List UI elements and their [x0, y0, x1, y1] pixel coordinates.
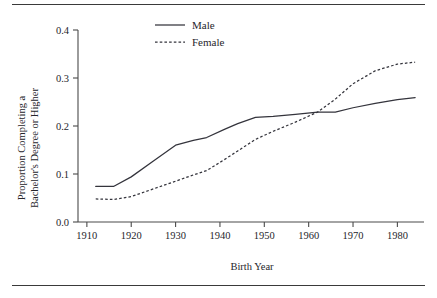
- series-line-male: [96, 98, 415, 187]
- legend-label-female: Female: [192, 36, 224, 48]
- y-axis-tick-labels: 0.00.10.20.30.4: [56, 25, 70, 228]
- x-axis-title: Birth Year: [230, 261, 274, 272]
- y-axis-title-line-1: Proportion Completing a: [16, 95, 27, 200]
- x-tick-label: 1950: [254, 230, 275, 241]
- y-tick-label: 0.0: [56, 217, 69, 228]
- y-tick-label: 0.1: [56, 169, 69, 180]
- data-series-group: [96, 62, 415, 199]
- legend-label-male: Male: [192, 19, 215, 31]
- x-tick-label: 1910: [76, 230, 97, 241]
- y-axis-title-line-2: Bachelor's Degree or Higher: [29, 88, 40, 208]
- x-axis-ticks: [87, 222, 398, 227]
- y-axis-ticks: [73, 30, 78, 222]
- y-tick-label: 0.3: [56, 73, 69, 84]
- y-tick-label: 0.4: [56, 25, 70, 36]
- line-chart: 0.00.10.20.30.4 191019201930194019501960…: [0, 0, 437, 298]
- y-axis-title: Proportion Completing a Bachelor's Degre…: [16, 88, 40, 208]
- x-tick-label: 1980: [387, 230, 408, 241]
- figure-container: 0.00.10.20.30.4 191019201930194019501960…: [0, 0, 437, 298]
- y-tick-label: 0.2: [56, 121, 69, 132]
- chart-legend: Male Female: [155, 19, 224, 48]
- x-tick-label: 1940: [209, 230, 230, 241]
- series-line-female: [96, 62, 415, 199]
- x-tick-label: 1970: [343, 230, 364, 241]
- x-tick-label: 1960: [298, 230, 319, 241]
- x-axis-tick-labels: 19101920193019401950196019701980: [76, 230, 408, 241]
- x-tick-label: 1920: [121, 230, 142, 241]
- x-tick-label: 1930: [165, 230, 186, 241]
